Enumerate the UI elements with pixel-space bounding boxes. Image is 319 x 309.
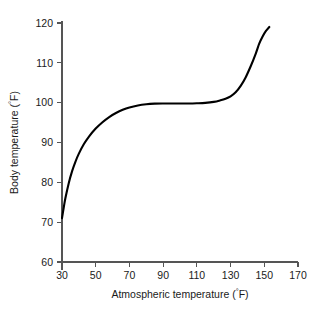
y-axis-ticks: 60708090100110120 (35, 17, 62, 268)
y-tick-label: 70 (41, 216, 53, 228)
y-tick-label: 110 (36, 57, 53, 69)
line-chart-canvas: 60708090100110120 30507090110130150170 A… (0, 0, 319, 309)
y-tick-label: 120 (35, 17, 53, 29)
x-tick-label: 90 (157, 269, 169, 281)
unit-suffix: F) (239, 288, 249, 300)
x-axis-title: Atmospheric temperature (°F) (111, 287, 248, 301)
y-tick-label: 90 (41, 136, 53, 148)
x-tick-label: 50 (90, 269, 102, 281)
x-tick-label: 170 (289, 269, 307, 281)
y-tick-label: 100 (35, 96, 53, 108)
data-line-body-temperature (62, 27, 269, 218)
y-tick-label: 60 (41, 256, 53, 268)
y-tick-label: 80 (41, 176, 53, 188)
x-tick-label: 30 (56, 269, 68, 281)
data-series-group (62, 27, 269, 218)
chart-axes (62, 21, 298, 270)
unit-suffix: F) (8, 91, 20, 101)
y-axis-title: Body temperature (°F) (7, 91, 21, 194)
x-tick-label: 110 (188, 269, 205, 281)
x-tick-label: 70 (124, 269, 136, 281)
chart-figure: 60708090100110120 30507090110130150170 A… (0, 0, 319, 309)
x-tick-label: 150 (256, 269, 274, 281)
x-axis-ticks: 30507090110130150170 (56, 262, 307, 281)
x-tick-label: 130 (222, 269, 240, 281)
